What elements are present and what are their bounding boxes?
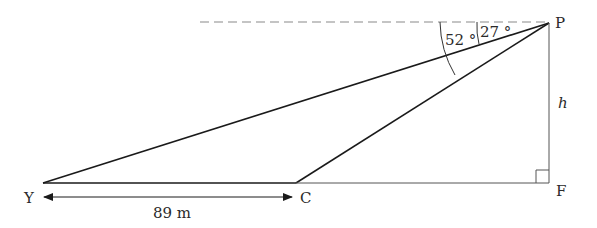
point-label-Y: Y: [23, 189, 35, 207]
right-angle-marker: [536, 170, 549, 183]
point-label-F: F: [556, 182, 566, 200]
angle-arc-27: [477, 22, 479, 44]
point-label-C: C: [300, 189, 311, 207]
angle-label-52: 52 °: [445, 31, 476, 49]
angle-label-27: 27 °: [480, 23, 511, 41]
angle-of-depression-diagram: 52 ° 27 ° P Y C F h 89 m: [0, 0, 597, 228]
point-label-P: P: [555, 14, 565, 32]
height-label-h: h: [558, 94, 568, 112]
line-PC: [296, 23, 549, 183]
distance-label: 89 m: [153, 204, 191, 222]
